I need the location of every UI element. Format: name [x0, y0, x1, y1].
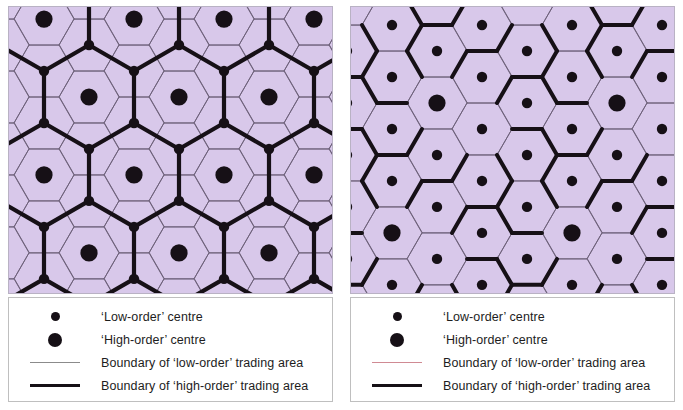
legend-item: ‘Low-order’ centre [351, 305, 674, 328]
map-left-svg [9, 7, 332, 293]
legend-right: ‘Low-order’ centre ‘High-order’ centre B… [350, 297, 675, 402]
legend-item-label: Boundary of ‘high-order’ trading area [101, 379, 308, 393]
map-right-k7 [350, 6, 675, 294]
legend-item-label: ‘High-order’ centre [101, 333, 206, 347]
legend-left: ‘Low-order’ centre ‘High-order’ centre B… [8, 297, 333, 402]
high-order-centre-icon [351, 333, 443, 347]
legend-item-label: Boundary of ‘low-order’ trading area [101, 356, 303, 370]
legend-item: ‘High-order’ centre [9, 328, 332, 351]
legend-item: ‘High-order’ centre [351, 328, 674, 351]
legend-item-label: ‘High-order’ centre [443, 333, 548, 347]
legend-item: Boundary of ‘high-order’ trading area [351, 374, 674, 397]
legend-item-label: Boundary of ‘low-order’ trading area [443, 356, 645, 370]
legend-item: ‘Low-order’ centre [9, 305, 332, 328]
high-order-boundary-icon [9, 384, 101, 387]
legend-item-label: ‘Low-order’ centre [443, 310, 545, 324]
high-order-boundary-icon [351, 384, 443, 387]
legend-item-label: Boundary of ‘high-order’ trading area [443, 379, 650, 393]
map-right-svg [351, 7, 674, 293]
low-order-boundary-icon [351, 362, 443, 363]
low-order-boundary-icon [9, 362, 101, 363]
legend-item: Boundary of ‘low-order’ trading area [9, 351, 332, 374]
legend-item-label: ‘Low-order’ centre [101, 310, 203, 324]
central-place-figure: ‘Low-order’ centre ‘High-order’ centre B… [0, 0, 683, 410]
low-order-centre-icon [351, 312, 443, 321]
map-left-k3 [8, 6, 333, 294]
low-order-centre-icon [9, 312, 101, 321]
high-order-centre-icon [9, 333, 101, 347]
legend-item: Boundary of ‘low-order’ trading area [351, 351, 674, 374]
legend-item: Boundary of ‘high-order’ trading area [9, 374, 332, 397]
